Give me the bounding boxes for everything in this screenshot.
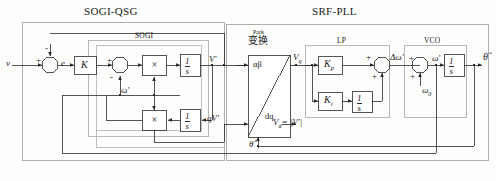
block-multiplier-1 (142, 55, 166, 75)
block-integrator-2 (180, 109, 200, 131)
block-Kp (318, 56, 342, 74)
sum-junction-lp (374, 57, 390, 73)
node-vq (295, 64, 298, 67)
block-multiplier-2 (142, 110, 166, 130)
block-integrator-vco (444, 54, 464, 76)
sum-junction-2 (112, 57, 128, 73)
block-integrator-1 (180, 54, 200, 76)
node-thetahat-park (257, 145, 260, 148)
block-gain-K (74, 56, 96, 74)
node-int1-branch (211, 64, 214, 67)
diagram-vector-layer (0, 0, 496, 181)
block-integrator-lp (352, 91, 372, 112)
sum-junction-1 (42, 57, 58, 73)
sogi-qsg-frame (22, 22, 224, 160)
block-diagram-canvas: SOGI-QSG SRF-PLL SOGI LP VCO Park 变换 v e… (0, 0, 496, 181)
block-Ki (318, 92, 342, 110)
